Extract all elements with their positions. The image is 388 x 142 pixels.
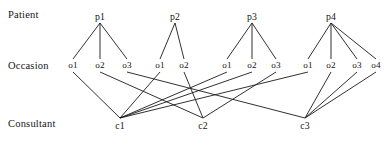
consultant-node-c3[interactable]: c3 bbox=[300, 120, 309, 131]
occasion-to-consultant-edges bbox=[73, 72, 376, 118]
consultant-edge-p4o3-c3 bbox=[305, 72, 357, 118]
consultant-edge-p4o2-c3 bbox=[305, 72, 331, 118]
patient-edge-p4-p4o1 bbox=[308, 23, 331, 59]
occasion-node-p4o1[interactable]: o1 bbox=[303, 60, 312, 70]
occasion-node-p3o1[interactable]: o1 bbox=[222, 60, 231, 70]
consultant-edge-p4o4-c3 bbox=[305, 72, 376, 118]
patient-edge-p3-p3o1 bbox=[227, 23, 252, 59]
row-label-patient: Patient bbox=[8, 9, 39, 20]
tripartite-graph-diagram: PatientOccasionConsultant p1p2p3p4o1o2o3… bbox=[0, 0, 388, 142]
patient-node-p3[interactable]: p3 bbox=[247, 11, 257, 22]
patient-edge-p1-p1o3 bbox=[100, 23, 127, 59]
patient-edge-p3-p3o3 bbox=[252, 23, 276, 59]
patient-to-occasion-edges bbox=[73, 23, 376, 59]
consultant-edge-p1o1-c1 bbox=[73, 72, 120, 118]
occasion-node-p3o3[interactable]: o3 bbox=[271, 60, 280, 70]
patient-node-p4[interactable]: p4 bbox=[326, 11, 336, 22]
consultant-edge-p1o2-c2 bbox=[100, 72, 203, 118]
patient-edge-p1-p1o1 bbox=[73, 23, 100, 59]
patient-node-p1[interactable]: p1 bbox=[95, 11, 105, 22]
occasion-node-p4o3[interactable]: o3 bbox=[352, 60, 361, 70]
occasion-node-p2o1[interactable]: o1 bbox=[155, 60, 164, 70]
consultant-edge-p3o1-c1 bbox=[120, 72, 227, 118]
occasion-node-p3o2[interactable]: o2 bbox=[247, 60, 256, 70]
patient-edge-p2-p2o1 bbox=[160, 23, 175, 59]
patient-node-p2[interactable]: p2 bbox=[170, 11, 180, 22]
occasion-node-p1o3[interactable]: o3 bbox=[122, 60, 131, 70]
occasion-node-p1o2[interactable]: o2 bbox=[95, 60, 104, 70]
row-label-consultant: Consultant bbox=[8, 118, 56, 129]
occasion-node-p4o2[interactable]: o2 bbox=[326, 60, 335, 70]
patient-edge-p2-p2o2 bbox=[175, 23, 184, 59]
consultant-node-c1[interactable]: c1 bbox=[115, 120, 124, 131]
consultant-node-c2[interactable]: c2 bbox=[198, 120, 207, 131]
occasion-node-p2o2[interactable]: o2 bbox=[179, 60, 188, 70]
row-label-occasion: Occasion bbox=[8, 60, 49, 71]
occasion-node-p1o1[interactable]: o1 bbox=[68, 60, 77, 70]
occasion-node-p4o4[interactable]: o4 bbox=[371, 60, 380, 70]
